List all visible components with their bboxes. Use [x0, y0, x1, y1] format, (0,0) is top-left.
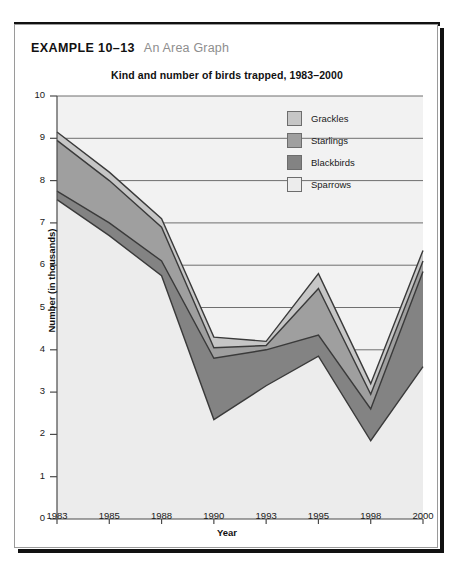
y-axis-tick-label: 9 — [19, 131, 45, 142]
example-panel: EXAMPLE 10–13An Area Graph Kind and numb… — [14, 24, 438, 548]
x-axis-tick-label: 2000 — [401, 510, 445, 521]
y-axis-tick-label: 1 — [19, 470, 45, 481]
legend-item-label: Grackles — [311, 113, 348, 124]
frame-shadow-right — [440, 28, 444, 552]
area-chart: 0123456789101983198519881990199319951998… — [15, 25, 439, 549]
x-axis-tick-label: 1993 — [244, 510, 288, 521]
x-axis-tick-label: 1990 — [192, 510, 236, 521]
legend-swatch-icon — [287, 133, 302, 148]
x-axis-tick-label: 1995 — [296, 510, 340, 521]
legend-item-label: Sparrows — [311, 179, 351, 190]
chart-canvas — [15, 25, 439, 549]
legend-item-label: Blackbirds — [311, 157, 355, 168]
x-axis-title: Year — [15, 527, 439, 538]
y-axis-tick-label: 6 — [19, 258, 45, 269]
y-axis-tick-label: 3 — [19, 385, 45, 396]
x-axis-tick-label: 1998 — [349, 510, 393, 521]
legend-swatch-icon — [287, 111, 302, 126]
chart-legend: GracklesStarlingsBlackbirdsSparrows — [287, 107, 355, 195]
legend-item: Sparrows — [287, 173, 355, 195]
legend-swatch-icon — [287, 155, 302, 170]
y-axis-title: Number (in thousands) — [46, 221, 57, 341]
x-axis-tick-label: 1983 — [35, 510, 79, 521]
y-axis-tick-label: 8 — [19, 174, 45, 185]
x-axis-tick-label: 1985 — [87, 510, 131, 521]
legend-item: Grackles — [287, 107, 355, 129]
y-axis-tick-label: 4 — [19, 343, 45, 354]
legend-item: Blackbirds — [287, 151, 355, 173]
legend-swatch-icon — [287, 177, 302, 192]
y-axis-tick-label: 7 — [19, 216, 45, 227]
legend-item: Starlings — [287, 129, 355, 151]
y-axis-tick-label: 5 — [19, 301, 45, 312]
x-axis-tick-label: 1988 — [140, 510, 184, 521]
y-axis-tick-label: 10 — [19, 89, 45, 100]
bottom-rule — [18, 549, 444, 553]
legend-item-label: Starlings — [311, 135, 348, 146]
y-axis-tick-label: 2 — [19, 427, 45, 438]
